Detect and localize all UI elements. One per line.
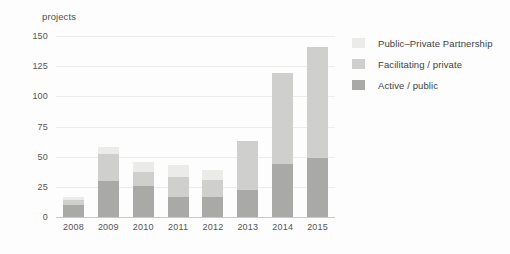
bar-segment [202, 170, 223, 180]
bar-segment [237, 141, 258, 190]
gridline [56, 217, 335, 218]
bar-segment [133, 172, 154, 185]
legend-item-label: Public–Private Partnership [378, 38, 493, 49]
legend-item-label: Active / public [378, 80, 438, 91]
bar-2010[interactable] [133, 162, 154, 217]
bar-segment [168, 177, 189, 196]
bar-segment [272, 73, 293, 164]
y-axis-title: projects [42, 11, 76, 22]
bar-segment [307, 158, 328, 217]
legend-swatch-icon [352, 38, 365, 48]
gridline [56, 36, 335, 37]
bar-segment [168, 165, 189, 177]
y-axis-tick-label: 125 [2, 61, 48, 71]
bar-segment [63, 205, 84, 217]
legend-item-label: Facilitating / private [378, 59, 462, 70]
bar-segment [272, 164, 293, 217]
bar-segment [133, 186, 154, 217]
bar-chart: projects 0255075100125150 20082009201020… [0, 0, 510, 254]
bar-segment [168, 197, 189, 218]
legend-item[interactable]: Active / public [352, 76, 493, 94]
y-axis-tick-label: 0 [2, 212, 48, 222]
chart-legend: Public–Private PartnershipFacilitating /… [352, 34, 493, 97]
gridline [56, 66, 335, 67]
legend-item[interactable]: Public–Private Partnership [352, 34, 493, 52]
x-axis-tick-label: 2015 [298, 222, 338, 232]
bar-segment [98, 147, 119, 154]
bar-2008[interactable] [63, 197, 84, 217]
bar-segment [307, 47, 328, 158]
y-axis-tick-label: 75 [2, 122, 48, 132]
bar-segment [98, 154, 119, 181]
bar-segment [202, 180, 223, 197]
bar-2009[interactable] [98, 147, 119, 217]
bar-segment [202, 197, 223, 218]
legend-item[interactable]: Facilitating / private [352, 55, 493, 73]
y-axis-tick-label: 150 [2, 31, 48, 41]
bar-segment [133, 162, 154, 173]
bar-2014[interactable] [272, 73, 293, 217]
y-axis-tick-label: 25 [2, 182, 48, 192]
bar-2013[interactable] [237, 141, 258, 217]
bar-2015[interactable] [307, 47, 328, 217]
bar-2012[interactable] [202, 170, 223, 217]
bar-segment [98, 181, 119, 217]
bar-2011[interactable] [168, 165, 189, 217]
y-axis-tick-label: 100 [2, 91, 48, 101]
legend-swatch-icon [352, 59, 365, 69]
y-axis-tick-label: 50 [2, 152, 48, 162]
legend-swatch-icon [352, 80, 365, 90]
plot-area [56, 36, 335, 217]
bar-segment [237, 190, 258, 217]
